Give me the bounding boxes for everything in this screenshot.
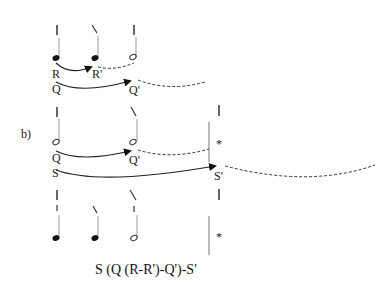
label-s-prime: S' xyxy=(214,169,223,183)
star-marker: * xyxy=(216,137,222,151)
row-3: * xyxy=(52,189,222,255)
arc-s-to-s-prime xyxy=(56,166,215,177)
arc-q-to-q-prime xyxy=(56,81,130,88)
motion-structure-diagram: R R' Q Q' b) * Q Q' S S' xyxy=(0,0,390,289)
structure-formula: S (Q (R-R')-Q')-S' xyxy=(95,262,197,278)
slash-mark xyxy=(131,107,136,116)
arc-q-to-q-prime-2 xyxy=(56,151,130,157)
label-q-2: Q xyxy=(52,151,61,165)
dashed-continuation-q2 xyxy=(138,149,209,155)
row-1: R R' Q Q' xyxy=(52,25,205,97)
label-q: Q xyxy=(52,82,61,96)
label-q-prime-2: Q' xyxy=(129,153,140,167)
label-r: R xyxy=(52,67,60,81)
slash-mark xyxy=(130,190,136,200)
dashed-continuation-s xyxy=(225,165,375,177)
label-s: S xyxy=(52,166,59,180)
half-note-head xyxy=(129,138,137,146)
dashed-continuation-r xyxy=(98,63,134,68)
star-marker: * xyxy=(216,230,222,244)
label-q-prime: Q' xyxy=(129,83,140,97)
label-r-prime: R' xyxy=(92,67,102,81)
slash-mark xyxy=(93,206,97,213)
arc-r-to-r-prime xyxy=(56,63,91,71)
section-label: b) xyxy=(21,127,31,141)
row-2: b) * Q Q' S S' xyxy=(21,105,375,183)
dashed-continuation-q xyxy=(138,80,205,87)
slash-mark xyxy=(92,25,97,33)
